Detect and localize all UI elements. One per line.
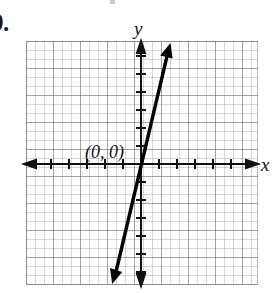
- origin-point-label: (0, 0): [85, 143, 124, 161]
- plotted-line-layer: [0, 0, 275, 293]
- line-down-arrow: [110, 268, 122, 284]
- line-up-arrow: [160, 43, 172, 59]
- y-axis-label: y: [134, 19, 142, 38]
- graph-figure: 9.: [0, 0, 275, 293]
- x-axis-label: x: [261, 155, 269, 174]
- plotted-line: [110, 43, 173, 284]
